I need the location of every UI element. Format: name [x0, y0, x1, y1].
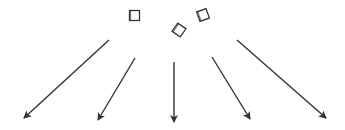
cube-square-1	[130, 11, 140, 21]
arrow-4	[212, 57, 250, 119]
cube-square-2	[172, 23, 186, 37]
squares-group	[130, 9, 210, 37]
cube-square-3	[197, 9, 210, 22]
arrow-2	[98, 58, 135, 120]
arrow-1	[24, 40, 109, 118]
arrow-5	[237, 40, 326, 118]
scatter-diagram	[0, 0, 345, 130]
arrows-group	[24, 40, 326, 122]
